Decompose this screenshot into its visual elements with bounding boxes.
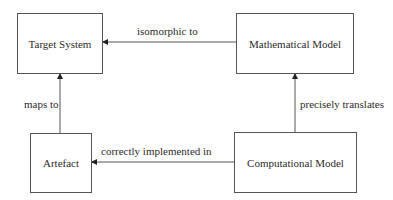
node-mathematical-model-label: Mathematical Model [249, 38, 341, 50]
node-artefact: Artefact [30, 133, 92, 193]
edge-implemented-label: correctly implemented in [101, 145, 212, 157]
edge-precisely-translates-label: precisely translates [300, 98, 384, 110]
node-computational-model: Computational Model [234, 132, 357, 193]
node-computational-model-label: Computational Model [247, 157, 344, 169]
node-target-system: Target System [17, 13, 103, 74]
node-artefact-label: Artefact [43, 157, 79, 169]
node-target-system-label: Target System [29, 38, 92, 50]
diagram-canvas: Target System Mathematical Model Artefac… [0, 0, 393, 200]
edge-maps-to-label: maps to [24, 98, 59, 110]
edge-isomorphic-label: isomorphic to [137, 25, 198, 37]
node-mathematical-model: Mathematical Model [236, 13, 354, 74]
